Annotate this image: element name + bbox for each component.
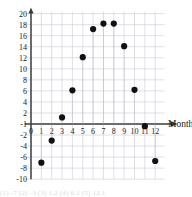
x-tick-label: 10 bbox=[131, 127, 139, 136]
data-point bbox=[38, 160, 44, 166]
chart-canvas: -10-8-6-4-22468101214161820-1 0123456789… bbox=[0, 0, 192, 197]
x-tick-label: 9 bbox=[122, 127, 126, 136]
y-tick-label: 4 bbox=[23, 98, 27, 107]
y-tick-label: -4 bbox=[20, 142, 27, 151]
x-tick-label: 8 bbox=[112, 127, 116, 136]
clipped-footer-text: (1) -7 (2) -3 (3) 1.2 (4) 6.1 (5) 12.1 bbox=[0, 189, 192, 197]
y-tick-label: 16 bbox=[19, 32, 27, 41]
y-tick-label: -8 bbox=[20, 164, 27, 173]
y-tick-label: 12 bbox=[19, 54, 27, 63]
y-tick-label: 2 bbox=[23, 109, 27, 118]
x-tick-label: 4 bbox=[70, 127, 74, 136]
data-point bbox=[142, 123, 148, 129]
x-tick-label: 6 bbox=[91, 127, 95, 136]
data-point bbox=[121, 43, 127, 49]
y-tick-label: -10 bbox=[16, 175, 27, 184]
scatter-chart: -10-8-6-4-22468101214161820-1 0123456789… bbox=[0, 0, 192, 197]
data-point bbox=[80, 54, 86, 60]
data-point bbox=[69, 87, 75, 93]
y-tick-label: 14 bbox=[19, 43, 27, 52]
data-point bbox=[100, 20, 106, 26]
y-tick-label: 10 bbox=[19, 65, 27, 74]
x-tick-label: 0 bbox=[29, 127, 33, 136]
data-points bbox=[38, 20, 158, 165]
x-tick-label: 3 bbox=[60, 127, 64, 136]
y-tick-label: -6 bbox=[20, 153, 27, 162]
data-point bbox=[152, 158, 158, 164]
data-point bbox=[49, 137, 55, 143]
axes bbox=[25, 8, 178, 180]
y-tick-label: 18 bbox=[19, 21, 27, 30]
x-axis-title: Month bbox=[168, 119, 192, 129]
y-tick-label: 8 bbox=[23, 76, 27, 85]
data-point bbox=[131, 87, 137, 93]
data-point bbox=[111, 20, 117, 26]
y-tick-label: -2 bbox=[20, 131, 27, 140]
gridlines bbox=[25, 12, 165, 180]
x-tick-label: 7 bbox=[101, 127, 105, 136]
x-axis-tick-labels: 0123456789101112 bbox=[29, 127, 159, 136]
y-tick-label: 6 bbox=[23, 87, 27, 96]
y-axis-arrow bbox=[28, 8, 33, 14]
x-tick-label: 5 bbox=[81, 127, 85, 136]
data-point bbox=[90, 26, 96, 32]
y-axis-origin-label: -1 bbox=[20, 120, 27, 129]
data-point bbox=[59, 114, 65, 120]
y-tick-label: 20 bbox=[19, 10, 27, 19]
y-axis-tick-labels: -10-8-6-4-22468101214161820-1 bbox=[16, 10, 27, 185]
